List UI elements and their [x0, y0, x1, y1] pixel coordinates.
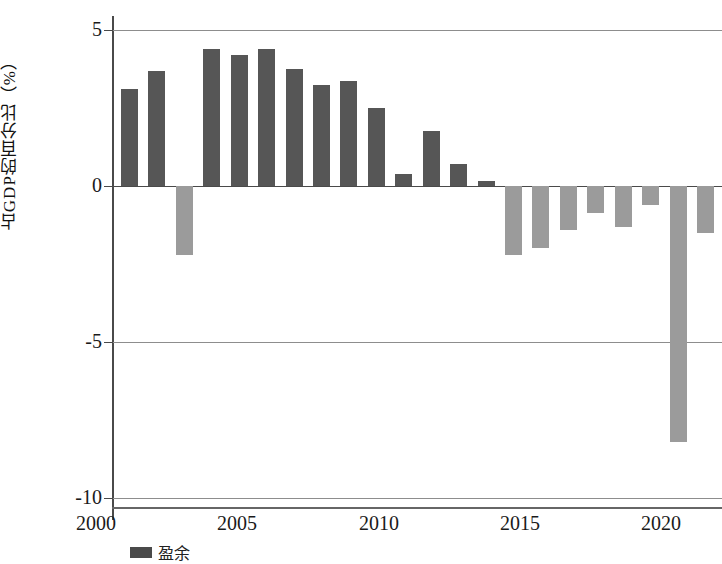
- bar-2001: [148, 71, 165, 186]
- bar-2002: [176, 186, 193, 255]
- bar-2015: [532, 186, 549, 248]
- y-tick-neg10: [104, 498, 113, 499]
- bar-2004: [231, 55, 248, 186]
- bar-2011: [423, 131, 440, 186]
- gridline-neg10: [113, 498, 722, 499]
- x-tick-label-2005: 2005: [217, 512, 257, 535]
- x-tick-label-2000: 2000: [76, 512, 116, 535]
- bar-2000: [121, 89, 138, 186]
- bar-2020: [670, 186, 687, 442]
- x-tick-label-2015: 2015: [500, 512, 540, 535]
- bar-2012: [450, 164, 467, 186]
- bar-2010: [395, 174, 412, 186]
- bar-2019: [642, 186, 659, 205]
- y-tick-0: [104, 186, 113, 187]
- positive-bar-swatch: [130, 547, 152, 558]
- bar-2018: [615, 186, 632, 227]
- y-tick-label-neg5: -5: [46, 330, 102, 353]
- bar-2016: [560, 186, 577, 230]
- legend-item-surplus: 盈余: [130, 540, 190, 564]
- legend-label-surplus: 盈余: [158, 540, 190, 564]
- gridline-neg5: [113, 342, 722, 343]
- bar-2017: [587, 186, 604, 213]
- y-tick-5: [104, 30, 113, 31]
- bar-2007: [313, 85, 330, 186]
- bar-2005: [258, 49, 275, 186]
- x-tick-label-2020: 2020: [641, 512, 681, 535]
- bar-2014: [505, 186, 522, 255]
- bar-2013: [478, 181, 495, 186]
- y-tick-label-neg10: -10: [34, 486, 102, 509]
- gridline-5: [113, 30, 722, 31]
- bar-2009: [368, 108, 385, 186]
- bar-2003: [203, 49, 220, 186]
- bar-2006: [286, 69, 303, 186]
- bar-2008: [340, 81, 357, 186]
- y-tick-label-0: 0: [58, 174, 102, 197]
- bar-2021: [697, 186, 714, 233]
- x-tick-label-2010: 2010: [359, 512, 399, 535]
- chart-legend: 盈余: [130, 540, 190, 564]
- y-tick-neg5: [104, 342, 113, 343]
- x-axis-spine: [112, 507, 722, 509]
- y-axis-title: 占GDP的百分比（%）: [0, 52, 24, 230]
- plot-area: [113, 30, 722, 498]
- y-tick-label-5: 5: [58, 18, 102, 41]
